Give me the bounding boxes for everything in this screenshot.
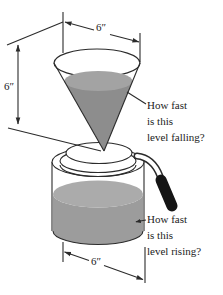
rising-question: How fast is this level rising? [147, 211, 223, 259]
funnel-diameter-label: 6″ [96, 21, 106, 33]
falling-question: How fast is this level falling? [147, 97, 223, 145]
extension-line [8, 128, 101, 151]
falling-question-line: How fast [147, 97, 223, 113]
funnel-cone [54, 49, 140, 151]
funnel-and-pot-related-rates-diagram: 6″ 6″ 6″ How fast is this level falling?… [0, 0, 223, 295]
falling-question-line: is this [147, 113, 223, 129]
pot-diameter-label: 6″ [91, 255, 101, 267]
falling-level-leader-line [127, 92, 146, 104]
funnel-height-label: 6″ [4, 80, 14, 92]
dimension-arrow [65, 22, 94, 30]
dimension-arrow [104, 266, 143, 280]
extension-line [7, 22, 63, 45]
pot-lid-top [66, 143, 132, 164]
rising-question-line: How fast [147, 211, 223, 227]
funnel-liquid-surface [64, 71, 132, 91]
pot-handle-grip [161, 180, 172, 206]
rising-question-line: is this [147, 227, 223, 243]
pot-liquid-surface [53, 181, 143, 208]
rising-question-line: level rising? [147, 243, 223, 259]
dimension-arrow [65, 252, 90, 261]
pot-diameter-dimension: 6″ [63, 242, 145, 283]
falling-question-line: level falling? [147, 129, 223, 145]
dimension-arrow [110, 35, 139, 43]
